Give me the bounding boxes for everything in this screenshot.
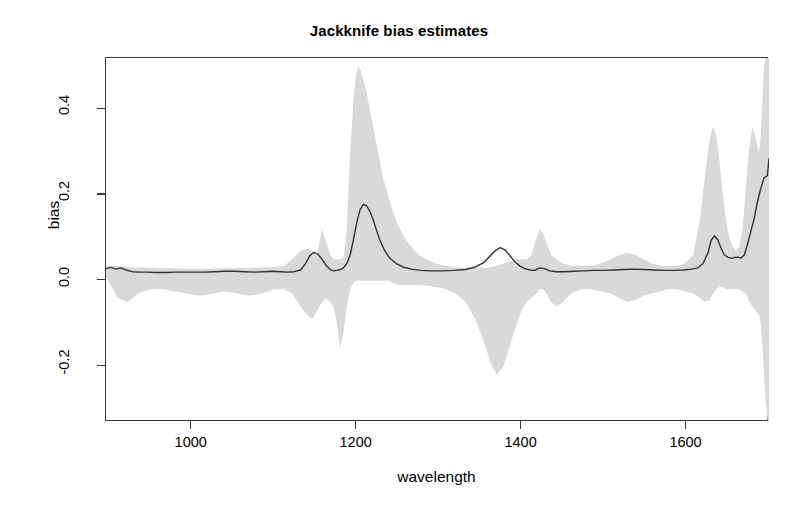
x-tick-label: 1600	[656, 434, 716, 450]
y-tick-mark	[97, 193, 105, 194]
figure-root: Jackknife bias estimates 100012001400160…	[0, 0, 798, 512]
y-tick-label: -0.2	[56, 337, 72, 387]
y-tick-mark	[97, 365, 105, 366]
outlier-spike	[768, 58, 769, 422]
y-tick-label: 0.4	[56, 80, 72, 130]
x-tick-mark	[190, 421, 191, 429]
y-tick-mark	[97, 279, 105, 280]
x-tick-mark	[685, 421, 686, 429]
x-axis-label: wavelength	[105, 468, 768, 486]
x-tick-label: 1000	[161, 434, 221, 450]
jackknife-envelope-band	[106, 58, 769, 422]
mean-bias-line	[106, 159, 769, 273]
plot-area	[105, 57, 768, 421]
y-tick-mark	[97, 108, 105, 109]
x-tick-label: 1400	[491, 434, 551, 450]
y-axis-label: bias	[45, 155, 63, 275]
x-tick-mark	[355, 421, 356, 429]
plot-canvas	[106, 58, 769, 422]
x-tick-mark	[520, 421, 521, 429]
chart-title: Jackknife bias estimates	[0, 22, 798, 39]
x-tick-label: 1200	[326, 434, 386, 450]
